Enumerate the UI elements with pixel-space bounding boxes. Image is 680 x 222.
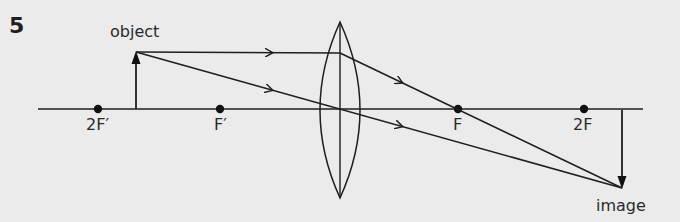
image-label: image: [596, 196, 646, 215]
point-2f-prime-label: 2F′: [86, 115, 109, 134]
ray-parallel-incident: [136, 52, 340, 53]
point-f-label: F: [453, 115, 462, 134]
point-f-prime-label: F′: [214, 115, 227, 134]
converging-lens-ray-diagram: 5 object image 2F′: [0, 0, 680, 222]
object-label: object: [110, 22, 159, 41]
point-2f-label: 2F: [573, 115, 592, 134]
point-2f-dot: [580, 105, 588, 113]
point-2f-prime-dot: [94, 105, 102, 113]
ray-diagram-svg: [0, 0, 680, 222]
point-f-prime-dot: [216, 105, 224, 113]
